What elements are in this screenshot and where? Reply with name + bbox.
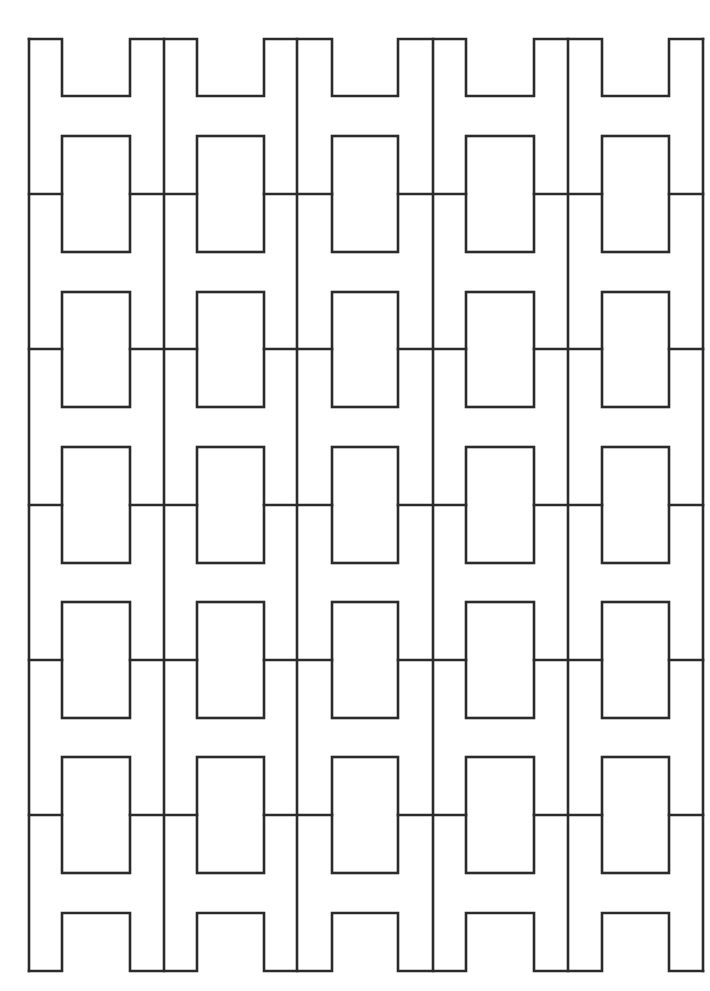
panel-rect xyxy=(197,136,264,252)
lattice-pattern-diagram xyxy=(0,0,710,991)
panel-rect xyxy=(197,292,264,407)
panel-rect xyxy=(197,602,264,718)
panel-rect xyxy=(62,757,130,873)
panel-rect xyxy=(197,757,264,873)
bottom-notched-edge xyxy=(29,913,703,971)
panel-rect xyxy=(602,292,669,407)
lattice-svg xyxy=(0,0,710,991)
panel-rect xyxy=(602,136,669,252)
panel-rect xyxy=(466,447,534,563)
panel-rect xyxy=(62,292,130,407)
panel-rect xyxy=(332,447,398,563)
panel-rect xyxy=(332,292,398,407)
panel-rect xyxy=(332,757,398,873)
top-notched-edge xyxy=(29,39,703,96)
panel-rect xyxy=(332,602,398,718)
panel-rect xyxy=(466,602,534,718)
panel-rect xyxy=(602,602,669,718)
panel-rect xyxy=(602,447,669,563)
panel-rect xyxy=(332,136,398,252)
panel-rect xyxy=(602,757,669,873)
panel-rect xyxy=(62,447,130,563)
panel-rect xyxy=(197,447,264,563)
panel-rect xyxy=(466,136,534,252)
panel-rect xyxy=(466,292,534,407)
panel-rect xyxy=(62,136,130,252)
panel-rect xyxy=(62,602,130,718)
panel-rect xyxy=(466,757,534,873)
